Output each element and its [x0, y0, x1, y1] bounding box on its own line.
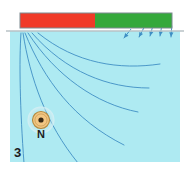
- magnetic-field-figure: N 3: [0, 0, 190, 173]
- magnet-pole-green: [95, 13, 172, 28]
- magnet-pole-red: [20, 13, 95, 28]
- compass-label: N: [37, 128, 45, 140]
- compass-center-dot: [38, 117, 43, 122]
- bar-magnet: [20, 13, 172, 28]
- figure-canvas: N 3: [0, 0, 190, 173]
- figure-number: 3: [14, 145, 21, 160]
